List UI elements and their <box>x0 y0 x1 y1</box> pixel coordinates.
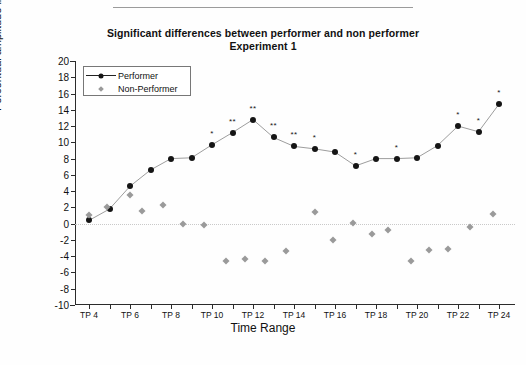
significance-marker: * <box>477 115 481 124</box>
x-tick-label: TP 20 <box>406 310 429 320</box>
x-tick <box>458 305 459 309</box>
chart-page: Significant differences between performe… <box>0 0 526 365</box>
x-tick-label: TP 10 <box>201 310 224 320</box>
significance-marker: ** <box>270 121 277 130</box>
y-tick-label: 4 <box>63 186 69 197</box>
data-point-non-performer <box>489 210 496 217</box>
x-tick <box>110 305 111 309</box>
y-tick-label: -10 <box>55 300 69 311</box>
significance-marker: ** <box>290 130 297 139</box>
y-tick <box>70 61 75 62</box>
data-point-performer <box>373 156 379 162</box>
data-point-performer <box>394 156 400 162</box>
legend-label-performer: Performer <box>118 71 158 81</box>
data-point-performer <box>455 123 461 129</box>
x-axis <box>75 304 515 305</box>
data-point-performer <box>148 167 154 173</box>
x-tick <box>479 305 480 309</box>
x-tick-label: TP 24 <box>488 310 511 320</box>
y-tick <box>71 191 75 192</box>
significance-marker: ** <box>249 103 256 112</box>
y-tick-label: -6 <box>60 267 69 278</box>
data-point-non-performer <box>159 201 166 208</box>
performer-marker-icon <box>84 69 118 82</box>
data-point-non-performer <box>368 231 375 238</box>
x-tick-label: TP 16 <box>324 310 347 320</box>
data-point-performer <box>353 163 359 169</box>
data-point-non-performer <box>329 236 336 243</box>
y-tick <box>71 142 75 143</box>
legend-item-performer[interactable]: Performer <box>84 69 190 82</box>
data-point-performer <box>189 155 195 161</box>
data-point-non-performer <box>180 220 187 227</box>
x-tick <box>130 305 131 309</box>
x-tick-label: TP 4 <box>80 310 98 320</box>
data-point-non-performer <box>311 209 318 216</box>
data-point-performer <box>209 142 215 148</box>
data-point-performer <box>312 146 318 152</box>
data-point-non-performer <box>223 258 230 265</box>
x-tick <box>274 305 275 309</box>
y-tick <box>71 110 75 111</box>
chart-title: Significant differences between performe… <box>0 27 526 53</box>
performer-line-path <box>75 61 515 305</box>
x-tick <box>376 305 377 309</box>
x-tick <box>212 305 213 309</box>
data-point-performer <box>230 130 236 136</box>
non-performer-marker-icon <box>84 82 118 95</box>
data-point-non-performer <box>139 207 146 214</box>
data-point-non-performer <box>282 248 289 255</box>
data-point-performer <box>127 183 133 189</box>
significance-marker: * <box>210 128 214 137</box>
significance-marker: * <box>354 149 358 158</box>
data-point-non-performer <box>426 246 433 253</box>
chart-subtitle: Experiment 1 <box>0 40 526 53</box>
chart-legend: Performer Non-Performer <box>83 66 191 96</box>
y-tick-label: -4 <box>60 251 69 262</box>
data-point-performer <box>332 149 338 155</box>
x-tick <box>171 305 172 309</box>
y-tick-label: 0 <box>63 218 69 229</box>
significance-marker: * <box>313 132 317 141</box>
data-point-non-performer <box>262 258 269 265</box>
x-tick <box>335 305 336 309</box>
y-tick-label: 8 <box>63 153 69 164</box>
y-tick-label: 10 <box>58 137 69 148</box>
x-tick-label: TP 18 <box>365 310 388 320</box>
x-tick <box>294 305 295 309</box>
zero-line <box>75 224 515 225</box>
x-axis-label: Time Range <box>0 321 526 335</box>
y-tick-label: 14 <box>58 104 69 115</box>
y-tick-label: -2 <box>60 234 69 245</box>
header-rule <box>113 7 413 8</box>
data-point-performer <box>291 143 297 149</box>
legend-item-non-performer[interactable]: Non-Performer <box>84 82 190 95</box>
y-tick-label: 20 <box>58 56 69 67</box>
x-tick-label: TP 14 <box>283 310 306 320</box>
data-point-non-performer <box>407 258 414 265</box>
y-tick <box>71 256 75 257</box>
data-point-non-performer <box>385 227 392 234</box>
x-tick <box>233 305 234 309</box>
y-tick <box>71 207 75 208</box>
significance-marker: * <box>456 110 460 119</box>
y-tick <box>71 272 75 273</box>
y-tick <box>71 175 75 176</box>
y-tick-label: 18 <box>58 72 69 83</box>
plot-area: 20181614121086420-2-4-6-8-10 TP 4TP 6TP … <box>75 61 515 305</box>
y-tick <box>71 289 75 290</box>
significance-marker: ** <box>229 116 236 125</box>
x-tick <box>315 305 316 309</box>
data-point-non-performer <box>126 192 133 199</box>
y-tick-label: 2 <box>63 202 69 213</box>
x-tick <box>356 305 357 309</box>
significance-marker: * <box>395 142 399 151</box>
legend-label-non-performer: Non-Performer <box>118 84 178 94</box>
x-tick-label: TP 22 <box>447 310 470 320</box>
x-tick-label: TP 8 <box>162 310 180 320</box>
y-tick-label: 16 <box>58 88 69 99</box>
y-tick <box>71 126 75 127</box>
data-point-performer <box>476 129 482 135</box>
y-tick <box>71 240 75 241</box>
y-tick-label: 6 <box>63 169 69 180</box>
